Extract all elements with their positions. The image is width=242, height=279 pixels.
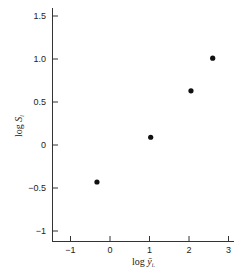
x-tick-label: 2 [186,245,191,255]
data-point [94,179,99,184]
y-axis-label: log Si [13,115,25,137]
data-point [148,135,153,140]
y-ticks: 1.51.00.50−0.5−1 [28,11,58,236]
scatter-plot: 1.51.00.50−0.5−1 −10123 log Si log ȳi. [0,0,242,279]
y-tick-label: 1.0 [33,54,46,64]
y-tick-label: −1 [36,226,46,236]
axes [52,8,234,242]
data-points [94,56,215,185]
y-tick-label: −0.5 [28,183,46,193]
y-tick-label: 1.5 [33,11,46,21]
data-point [210,56,215,61]
data-point [188,88,193,93]
x-axis-label: log ȳi. [132,256,155,268]
y-tick-label: 0.5 [33,97,46,107]
y-tick-label: 0 [41,140,46,150]
x-tick-label: −1 [65,245,75,255]
x-ticks: −10123 [65,236,231,255]
x-tick-label: 0 [107,245,112,255]
x-tick-label: 3 [226,245,231,255]
x-tick-label: 1 [147,245,152,255]
